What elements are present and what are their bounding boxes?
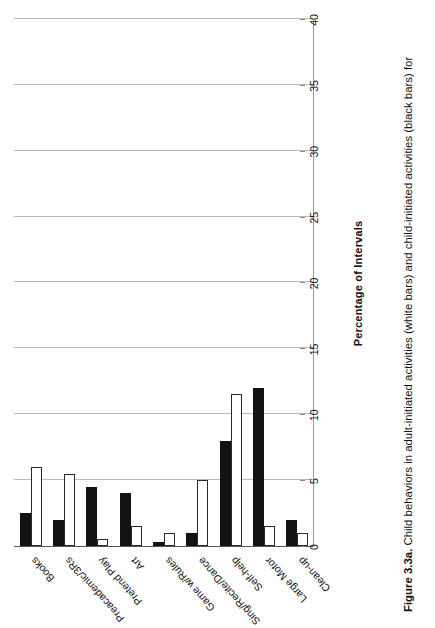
bar-child-initiated bbox=[20, 513, 31, 546]
axis-tick-label: 0 bbox=[308, 544, 320, 550]
bar-adult-initiated bbox=[131, 526, 142, 546]
axis-tick-label: 20 bbox=[308, 278, 320, 290]
axis-tick-label: 25 bbox=[308, 212, 320, 224]
axis-tick bbox=[300, 19, 305, 20]
axis-tick bbox=[300, 480, 305, 481]
category-label: Sing/Recite/Dance bbox=[195, 555, 262, 628]
category-band bbox=[47, 20, 80, 546]
figure-caption-text: Child behaviors in adult-initiated activ… bbox=[402, 57, 414, 546]
bar-adult-initiated bbox=[164, 533, 175, 546]
axis-tick bbox=[300, 151, 305, 152]
bar-adult-initiated bbox=[31, 467, 42, 546]
bar-adult-initiated bbox=[264, 526, 275, 546]
axis-tick-label: 35 bbox=[308, 80, 320, 92]
bar-adult-initiated bbox=[197, 480, 208, 546]
bar-chart: 0510152025303540 BooksPreacademic/3RsPre… bbox=[0, 0, 390, 617]
bar-adult-initiated bbox=[97, 539, 108, 546]
bar-child-initiated bbox=[220, 441, 231, 546]
axis-tick-label: 5 bbox=[308, 478, 320, 484]
bar-child-initiated bbox=[186, 533, 197, 546]
bar-child-initiated bbox=[253, 388, 264, 546]
axis-tick-label: 30 bbox=[308, 146, 320, 158]
category-band bbox=[114, 20, 147, 546]
plot-area bbox=[14, 20, 314, 547]
axis-tick bbox=[300, 217, 305, 218]
category-band bbox=[247, 20, 280, 546]
figure-label: Figure 3.3a. bbox=[402, 549, 414, 612]
bar-child-initiated bbox=[86, 487, 97, 546]
axis-tick bbox=[300, 414, 305, 415]
axis-tick bbox=[300, 283, 305, 284]
bar-adult-initiated bbox=[297, 533, 308, 546]
category-band bbox=[14, 20, 47, 546]
bar-child-initiated bbox=[153, 542, 164, 546]
value-axis-title: Percentage of Intervals bbox=[352, 20, 364, 547]
axis-tick bbox=[300, 348, 305, 349]
category-band bbox=[214, 20, 247, 546]
figure-caption: Figure 3.3a. Child behaviors in adult-in… bbox=[400, 12, 417, 612]
bar-adult-initiated bbox=[231, 395, 242, 547]
category-label: Books bbox=[28, 555, 56, 585]
bar-child-initiated bbox=[286, 520, 297, 546]
bar-child-initiated bbox=[53, 520, 64, 546]
axis-tick-label: 15 bbox=[308, 344, 320, 356]
category-label: Preacademic/3Rs bbox=[62, 555, 126, 625]
bar-child-initiated bbox=[120, 493, 131, 546]
axis-tick bbox=[300, 85, 305, 86]
rotated-chart-stage: 0510152025303540 BooksPreacademic/3RsPre… bbox=[0, 0, 390, 617]
category-band bbox=[181, 20, 214, 546]
axis-tick-label: 10 bbox=[308, 409, 320, 421]
bar-adult-initiated bbox=[64, 474, 75, 546]
gridline bbox=[14, 18, 313, 19]
axis-tick bbox=[300, 546, 305, 547]
category-band bbox=[81, 20, 114, 546]
axis-tick-label: 40 bbox=[308, 14, 320, 26]
category-label: Art bbox=[128, 555, 146, 573]
category-band bbox=[147, 20, 180, 546]
